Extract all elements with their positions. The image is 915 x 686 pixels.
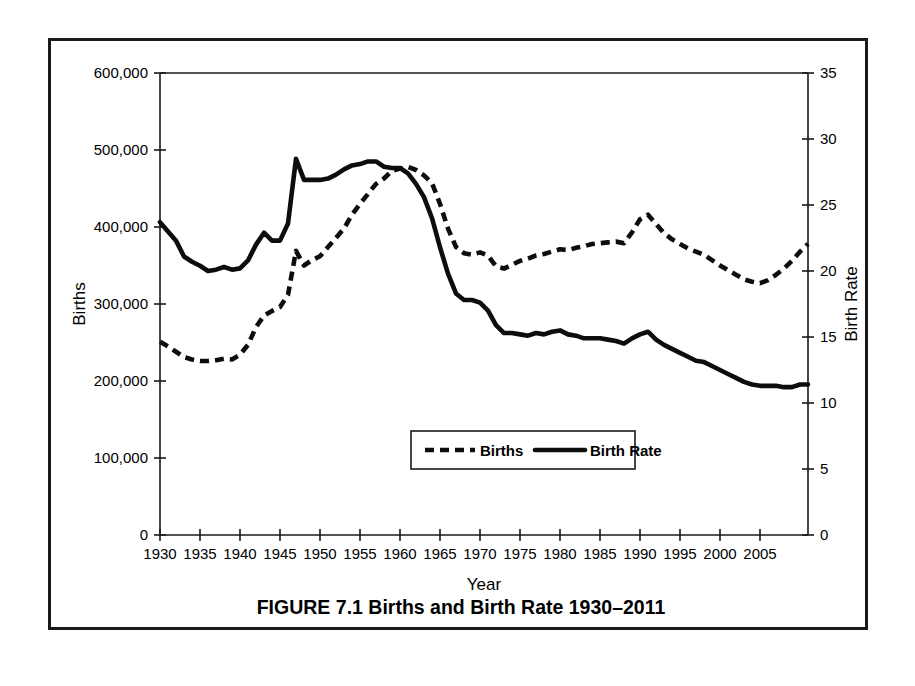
legend-label-births: Births — [480, 442, 523, 459]
left-tick-label: 500,000 — [94, 141, 148, 158]
right-tick-label: 10 — [820, 394, 837, 411]
x-tick-label: 1950 — [303, 545, 336, 562]
left-tick-label: 400,000 — [94, 218, 148, 235]
legend-label-birth-rate: Birth Rate — [590, 442, 662, 459]
y2-axis-title: Birth Rate — [842, 266, 861, 342]
data-series-group — [160, 159, 808, 387]
y-axis-title: Births — [70, 282, 89, 325]
x-tick-label: 1980 — [543, 545, 576, 562]
x-tick-label: 1930 — [143, 545, 176, 562]
x-tick-label: 1960 — [383, 545, 416, 562]
right-tick-label: 30 — [820, 130, 837, 147]
right-tick-label: 25 — [820, 196, 837, 213]
left-tick-label: 0 — [140, 526, 148, 543]
chart-area: 0100,000200,000300,000400,000500,000600,… — [51, 41, 871, 633]
x-tick-label: 2000 — [703, 545, 736, 562]
x-tick-label: 1970 — [463, 545, 496, 562]
right-tick-label: 15 — [820, 328, 837, 345]
x-axis-ticks: 1930193519401945195019551960196519701975… — [143, 529, 776, 562]
x-tick-label: 1975 — [503, 545, 536, 562]
left-tick-label: 100,000 — [94, 449, 148, 466]
right-tick-label: 5 — [820, 460, 828, 477]
x-tick-label: 1955 — [343, 545, 376, 562]
x-tick-label: 1940 — [223, 545, 256, 562]
right-tick-label: 35 — [820, 64, 837, 81]
series-line-births — [160, 167, 808, 361]
left-tick-label: 300,000 — [94, 295, 148, 312]
births-birth-rate-line-chart: 0100,000200,000300,000400,000500,000600,… — [51, 41, 871, 633]
left-tick-label: 600,000 — [94, 64, 148, 81]
x-tick-label: 1990 — [623, 545, 656, 562]
x-tick-label: 2005 — [743, 545, 776, 562]
x-tick-label: 1995 — [663, 545, 696, 562]
figure-caption: FIGURE 7.1 Births and Birth Rate 1930–20… — [257, 596, 666, 618]
left-tick-label: 200,000 — [94, 372, 148, 389]
left-axis-ticks: 0100,000200,000300,000400,000500,000600,… — [94, 64, 166, 543]
x-axis-title: Year — [467, 575, 502, 594]
right-tick-label: 0 — [820, 526, 828, 543]
x-tick-label: 1985 — [583, 545, 616, 562]
series-line-birth-rate — [160, 159, 808, 387]
chart-legend: Births Birth Rate — [411, 431, 662, 469]
x-tick-label: 1945 — [263, 545, 296, 562]
x-tick-label: 1935 — [183, 545, 216, 562]
figure-frame: 0100,000200,000300,000400,000500,000600,… — [48, 38, 868, 630]
right-tick-label: 20 — [820, 262, 837, 279]
x-tick-label: 1965 — [423, 545, 456, 562]
